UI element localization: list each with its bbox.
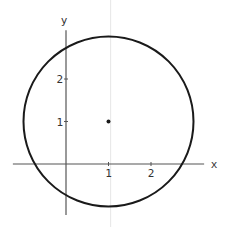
x-tick-label: 2 <box>148 167 155 180</box>
coordinate-plane: 1212 x y <box>0 0 230 227</box>
center-point <box>107 120 111 124</box>
y-tick-label: 2 <box>56 73 63 86</box>
y-axis-label: y <box>61 14 68 27</box>
x-tick-label: 1 <box>105 167 112 180</box>
y-tick-label: 1 <box>56 116 63 129</box>
x-axis-label: x <box>211 158 218 171</box>
